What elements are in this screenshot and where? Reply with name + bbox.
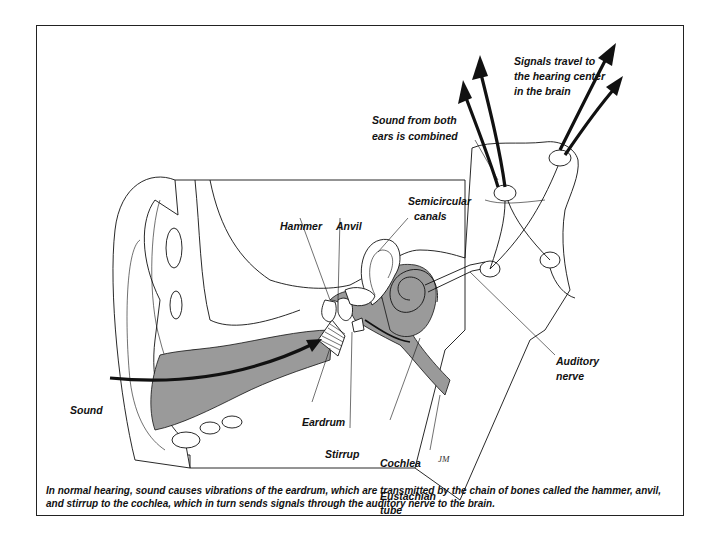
label-anvil: Anvil bbox=[335, 220, 363, 232]
figure-caption: In normal hearing, sound causes vibratio… bbox=[46, 484, 676, 510]
label-stirrup: Stirrup bbox=[325, 448, 360, 460]
label-sound: Sound bbox=[70, 404, 103, 416]
neural-pathway bbox=[508, 201, 550, 260]
stirrup-bone bbox=[352, 318, 364, 332]
ear-diagram: Signals travel to the hearing center in … bbox=[0, 0, 715, 539]
neural-pathway bbox=[550, 268, 575, 298]
cartilage-oval bbox=[172, 432, 200, 448]
brainstem-inner-line bbox=[485, 200, 545, 203]
leader-line-auditory bbox=[470, 272, 555, 355]
nucleus-oval bbox=[494, 185, 516, 201]
cartilage-oval bbox=[166, 228, 182, 268]
label-semicircular: Semicircular canals bbox=[408, 195, 474, 222]
cartilage-oval bbox=[200, 422, 220, 434]
artist-signature: JM bbox=[438, 454, 450, 464]
label-signals: Signals travel to the hearing center in … bbox=[514, 55, 608, 97]
label-combined: Sound from both ears is combined bbox=[372, 114, 460, 142]
leader-line-stirrup bbox=[350, 332, 352, 428]
label-auditory-nerve: Auditory nerve bbox=[555, 355, 602, 382]
hammer-bone bbox=[322, 300, 336, 322]
cartilage-oval bbox=[170, 291, 182, 319]
label-cochlea: Cochlea bbox=[380, 457, 421, 469]
skull-inner-contour bbox=[195, 180, 300, 325]
leader-line-combined bbox=[475, 140, 498, 180]
arrowhead-icon bbox=[606, 76, 623, 96]
arrowhead-icon bbox=[472, 55, 488, 80]
cartilage-oval bbox=[222, 416, 242, 428]
label-hammer: Hammer bbox=[280, 220, 323, 232]
arrowhead-icon bbox=[458, 80, 472, 104]
arrowhead-icon bbox=[598, 43, 616, 66]
neural-pathway bbox=[490, 201, 505, 269]
label-eardrum: Eardrum bbox=[302, 416, 345, 428]
pinna-outline bbox=[113, 177, 190, 468]
